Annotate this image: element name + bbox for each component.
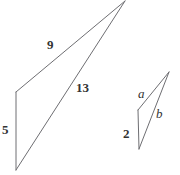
- label-side-2: 2: [123, 127, 130, 140]
- small-triangle-side-2: [138, 110, 139, 149]
- small-triangle: [138, 72, 169, 149]
- large-triangle: [16, 1, 125, 170]
- large-triangle-side-13: [16, 1, 125, 170]
- label-side-5: 5: [2, 123, 9, 136]
- triangles-drawing: [0, 0, 180, 175]
- small-triangle-side-b: [139, 72, 169, 149]
- large-triangle-side-9: [16, 1, 125, 92]
- label-side-9: 9: [47, 38, 54, 51]
- label-side-a: a: [138, 87, 145, 100]
- geometry-figure: 9 13 5 a b 2: [0, 0, 180, 175]
- label-side-13: 13: [76, 81, 89, 94]
- label-side-b: b: [156, 107, 163, 120]
